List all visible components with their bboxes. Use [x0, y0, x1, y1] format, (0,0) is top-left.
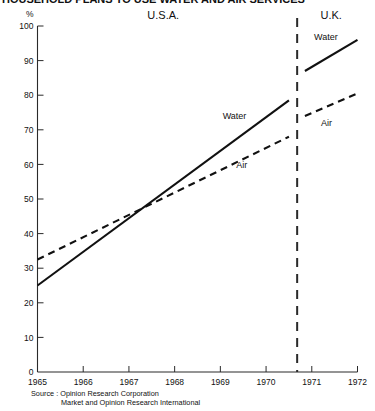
y-tick-label: 70: [24, 125, 34, 135]
chart-svg: U.S.A.U.K. %0102030405060708090100 19651…: [0, 0, 375, 411]
series-line-uk-air: [305, 93, 358, 115]
series-line-usa-air: [38, 137, 289, 260]
y-tick-label: 60: [24, 160, 34, 170]
x-tick-label: 1971: [302, 377, 321, 387]
series-annotation-water: Water: [314, 32, 338, 42]
y-tick-label: 20: [24, 298, 34, 308]
y-tick-label: 30: [24, 263, 34, 273]
y-tick-label: 40: [24, 229, 34, 239]
source-line-2: Market and Opinion Research Internationa…: [61, 398, 201, 407]
panel-title-uk: U.K.: [321, 9, 342, 21]
x-tick-label: 1970: [257, 377, 276, 387]
panel-title-usa: U.S.A.: [147, 9, 179, 21]
x-tick-label: 1965: [28, 377, 47, 387]
series-line-usa-water: [38, 100, 289, 285]
x-tick-label: 1966: [74, 377, 93, 387]
x-tick-label: 1972: [348, 377, 367, 387]
series-annotation-air: Air: [321, 118, 332, 128]
y-tick-label: 100: [19, 21, 33, 31]
source-label: Source : Opinion Research Corporation: [31, 389, 159, 398]
series-annotation-water: Water: [223, 111, 247, 121]
x-tick-label: 1968: [165, 377, 184, 387]
y-tick-label: 90: [24, 56, 34, 66]
series-annotation-air: Air: [236, 160, 247, 170]
series-lines-group: [38, 40, 358, 286]
y-tick-label: 10: [24, 333, 34, 343]
y-tick-label: 50: [24, 194, 34, 204]
x-axis-group: 19651966196719681969197019711972: [28, 366, 367, 387]
panel-titles-group: U.S.A.U.K.: [147, 9, 342, 21]
y-axis-group: %0102030405060708090100: [19, 9, 43, 377]
y-axis-unit-label: %: [26, 9, 34, 19]
x-tick-label: 1969: [211, 377, 230, 387]
x-tick-label: 1967: [119, 377, 138, 387]
y-tick-label: 80: [24, 90, 34, 100]
series-line-uk-water: [305, 40, 358, 71]
source-note: Source : Opinion Research CorporationMar…: [31, 389, 201, 407]
y-tick-label: 0: [29, 367, 34, 377]
chart-container: U.S.A.U.K. %0102030405060708090100 19651…: [0, 0, 375, 411]
series-annotations-group: WaterAirWaterAir: [223, 32, 338, 170]
